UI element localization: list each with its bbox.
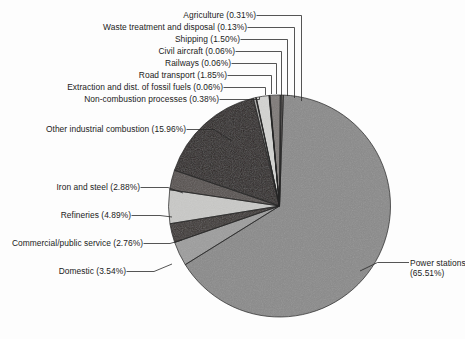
pie-chart-figure: Agriculture (0.31%) Waste treatment and … <box>0 0 465 339</box>
label-road-transport: Road transport (1.85%) <box>139 70 227 80</box>
label-civil-aircraft: Civil aircraft (0.06%) <box>159 46 236 56</box>
label-non-combustion-processes: Non-combustion processes (0.38%) <box>84 94 219 104</box>
label-shipping: Shipping (1.50%) <box>175 34 240 44</box>
label-extraction-fossil-fuels: Extraction and dist. of fossil fuels (0.… <box>67 82 223 92</box>
label-refineries: Refineries (4.89%) <box>61 210 131 220</box>
pie-slices-svg <box>168 94 391 318</box>
label-iron-and-steel: Iron and steel (2.88%) <box>56 182 140 192</box>
pie-chart-graphic <box>168 94 391 318</box>
label-power-stations-name: Power stations <box>410 258 465 268</box>
label-other-industrial-combustion: Other industrial combustion (15.96%) <box>46 124 186 134</box>
label-commercial-public-service: Commercial/public service (2.76%) <box>12 238 143 248</box>
label-agriculture: Agriculture (0.31%) <box>183 10 256 20</box>
label-waste-treatment-and-disposal: Waste treatment and disposal (0.13%) <box>103 22 247 32</box>
label-power-stations: Power stations (65.51%) <box>410 258 465 278</box>
label-domestic: Domestic (3.54%) <box>59 266 126 276</box>
label-railways: Railways (0.06%) <box>165 58 231 68</box>
label-power-stations-percent: (65.51%) <box>410 268 465 278</box>
